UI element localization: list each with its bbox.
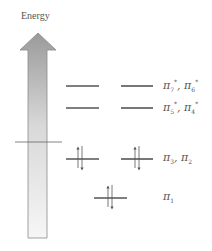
label-pi7-pi6: π7*, π6* [163, 78, 198, 93]
level-pi3-pi2 [66, 146, 153, 169]
label-pi3-pi2: π3, π2 [163, 151, 192, 165]
label-pi5-pi4: π5*, π4* [163, 100, 198, 115]
mo-energy-diagram [0, 0, 212, 251]
label-pi1: π1 [163, 190, 174, 204]
level-pi1 [94, 185, 127, 208]
energy-arrow [20, 33, 56, 238]
